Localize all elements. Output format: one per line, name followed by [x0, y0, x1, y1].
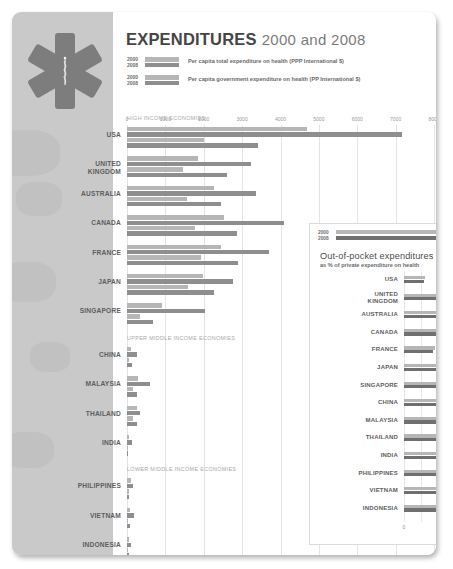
inset-gridline	[421, 272, 422, 522]
bar	[127, 406, 137, 410]
bar	[127, 202, 221, 206]
legend-swatch-2000	[145, 57, 179, 62]
legend-year-2008: 2008	[127, 81, 138, 87]
legend-swatch-2008	[145, 81, 179, 86]
title-main: EXPENDITURES	[126, 30, 257, 48]
inset-bar	[404, 473, 436, 476]
x-axis-tick: 8000	[428, 116, 436, 122]
inset-country-label-thailand: THAILAND	[314, 434, 398, 441]
bar	[127, 173, 227, 177]
country-label-japan: JAPAN	[26, 278, 121, 286]
inset-country-label-united-kingdom: UNITEDKINGDOM	[314, 291, 398, 305]
inset-country-label-usa: USA	[314, 276, 398, 283]
inset-bar	[404, 491, 436, 494]
bar	[127, 309, 205, 313]
country-label-canada: CANADA	[26, 219, 121, 227]
x-axis-tick: 7000	[390, 116, 401, 122]
bar	[127, 508, 130, 512]
bar	[127, 489, 129, 493]
section-header-upper: UPPER MIDDLE INCOME ECONOMIES	[127, 335, 235, 341]
bar	[127, 156, 198, 160]
bar	[127, 358, 129, 362]
legend-swatch-2000	[145, 75, 179, 80]
bar	[127, 167, 183, 171]
bar	[127, 478, 131, 482]
inset-legend-year-2008: 2008	[318, 236, 329, 241]
inset-bar	[404, 350, 433, 353]
bar	[127, 314, 140, 318]
bar	[127, 440, 132, 444]
inset-bar	[404, 368, 436, 371]
x-axis-tick: 4000	[275, 116, 286, 122]
bar	[127, 303, 162, 307]
inset-country-label-australia: AUSTRALIA	[314, 311, 398, 318]
x-axis-tick: 6000	[352, 116, 363, 122]
inset-bar	[404, 438, 436, 441]
bar	[127, 548, 128, 552]
country-label-australia: AUSTRALIA	[26, 190, 121, 198]
inset-bar	[404, 332, 436, 335]
bar	[127, 162, 251, 166]
bar	[127, 411, 140, 415]
bar	[127, 376, 138, 380]
inset-bar	[404, 385, 436, 388]
bar	[127, 231, 237, 235]
bar	[127, 221, 284, 225]
inset-country-label-canada: CANADA	[314, 329, 398, 336]
inset-country-label-philippines: PHILIPPINES	[314, 470, 398, 477]
inset-country-label-china: CHINA	[314, 399, 398, 406]
bar	[127, 255, 201, 259]
bar	[127, 382, 150, 386]
inset-bar	[404, 508, 436, 511]
page-title: EXPENDITURES 2000 and 2008	[126, 30, 366, 49]
legend-label-government: Per capita government expenditure on hea…	[188, 76, 360, 82]
section-header-lower: LOWER MIDDLE INCOME ECONOMIES	[127, 466, 236, 472]
inset-chart-panel: 2000 2008 Out-of-pocket expenditures as …	[309, 223, 436, 545]
inset-gridline	[404, 272, 405, 522]
bar	[127, 422, 137, 426]
bar	[127, 519, 128, 523]
bar	[127, 250, 269, 254]
legend-label-total: Per capita total expenditure on health (…	[188, 58, 344, 64]
country-label-france: FRANCE	[26, 249, 121, 257]
bar	[127, 186, 214, 190]
country-label-china: CHINA	[26, 351, 121, 359]
bar	[127, 191, 256, 195]
inset-country-label-india: INDIA	[314, 452, 398, 459]
bar	[127, 352, 137, 356]
bar	[127, 261, 238, 265]
legend-swatch-2008	[145, 63, 179, 68]
bar	[127, 245, 221, 249]
country-label-united-kingdom: UNITEDKINGDOM	[26, 160, 121, 176]
main-panel: EXPENDITURES 2000 and 2008 2000 2008 Per…	[113, 12, 436, 555]
inset-country-label-japan: JAPAN	[314, 364, 398, 371]
bar	[127, 274, 203, 278]
inset-country-label-vietnam: VIETNAM	[314, 487, 398, 494]
bar	[127, 143, 258, 147]
inset-title: Out-of-pocket expenditures	[320, 251, 433, 261]
country-label-vietnam: VIETNAM	[26, 512, 121, 520]
country-label-usa: USA	[26, 131, 121, 139]
bar	[127, 285, 188, 289]
bar	[127, 451, 128, 455]
inset-bar	[404, 280, 424, 283]
inset-legend-swatch-2000	[336, 230, 436, 234]
inset-bar	[404, 420, 436, 423]
bar	[127, 553, 129, 555]
bar	[127, 290, 214, 294]
inset-bar	[404, 315, 436, 318]
gridline	[281, 125, 282, 555]
inset-subtitle: as % of private expenditure on health	[320, 262, 419, 268]
bar	[127, 226, 195, 230]
bar	[127, 495, 129, 499]
inset-country-label-malaysia: MALAYSIA	[314, 417, 398, 424]
country-label-malaysia: MALAYSIA	[26, 380, 121, 388]
bar	[127, 543, 131, 547]
bar	[127, 215, 224, 219]
country-label-thailand: THAILAND	[26, 410, 121, 418]
section-header-high: HIGH INCOME ECONOMIES	[127, 115, 205, 121]
bar	[127, 347, 131, 351]
inset-bar	[404, 297, 436, 300]
bar	[127, 279, 233, 283]
bar	[127, 446, 128, 450]
